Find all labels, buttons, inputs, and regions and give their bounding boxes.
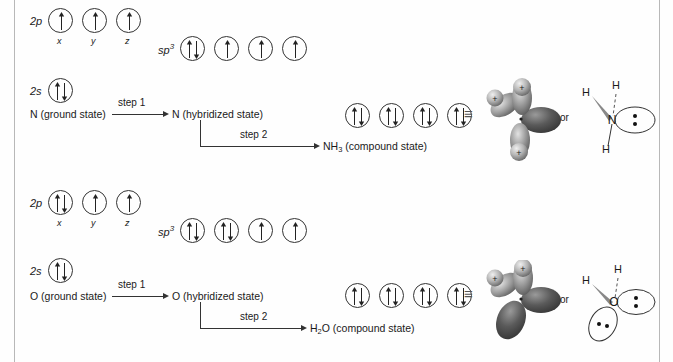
orbital-box: [214, 36, 239, 61]
svg-text:H: H: [614, 263, 622, 275]
spin-up-arrow: [385, 107, 392, 126]
n-hybridized-state-label: N (hybridized state): [172, 108, 263, 120]
spin-up-arrow: [126, 194, 133, 213]
n-compound-orbital-row: [345, 103, 472, 128]
orbital-box: [82, 8, 107, 33]
o-step2-vertical-line: [200, 302, 201, 328]
spin-up-arrow: [385, 287, 392, 306]
orbital-box: [48, 78, 73, 103]
spin-down-arrow: [392, 107, 399, 126]
o-2p-orbital-row: 2p: [30, 190, 141, 215]
spin-down-arrow: [358, 107, 365, 126]
spin-up-arrow: [92, 194, 99, 213]
spin-up-arrow: [58, 12, 65, 31]
left-margin-rule: [14, 0, 15, 362]
orbital-box: [282, 218, 307, 243]
spin-down-arrow: [61, 262, 68, 281]
orbital-box: [180, 36, 205, 61]
o-sp3-orbital-row: sp3: [158, 218, 307, 243]
orbital-box: [82, 190, 107, 215]
diagram-canvas: 2p x y z sp3: [0, 0, 673, 362]
orbital-box: [48, 8, 73, 33]
n-step1-arrowhead: [163, 111, 169, 117]
svg-text:+: +: [519, 83, 524, 93]
orbital-box: [116, 8, 141, 33]
spin-up-arrow: [453, 287, 460, 306]
spin-up-arrow: [292, 222, 299, 241]
svg-text:+: +: [520, 264, 525, 274]
svg-text:N: N: [608, 113, 617, 127]
spin-down-arrow: [193, 222, 200, 241]
n-step2-label: step 2: [240, 129, 267, 140]
o-equivalence-symbol: ≡: [464, 285, 473, 302]
orbital-box: [48, 258, 73, 283]
spin-up-arrow: [186, 40, 193, 59]
o-step1-arrowhead: [163, 293, 169, 299]
o-sp3-label: sp3: [158, 224, 174, 238]
n-ground-state-label: N (ground state): [30, 108, 106, 120]
spin-up-arrow: [351, 107, 358, 126]
orbital-box: [345, 283, 370, 308]
n-step1-label: step 1: [118, 97, 145, 108]
spin-up-arrow: [224, 40, 231, 59]
orbital-box: [116, 190, 141, 215]
spin-up-arrow: [220, 222, 227, 241]
o-step2-arrow-line: [200, 328, 302, 329]
spin-down-arrow: [358, 287, 365, 306]
spin-up-arrow: [419, 107, 426, 126]
nh3-lewis-structure: H H H N: [578, 78, 662, 164]
n-2p-sub-x: x: [57, 36, 62, 46]
spin-up-arrow: [54, 262, 61, 281]
spin-down-arrow: [426, 287, 433, 306]
svg-text:O: O: [609, 295, 618, 309]
spin-up-arrow: [258, 40, 265, 59]
o-step2-arrowhead: [301, 325, 307, 331]
o-step1-arrow-line: [112, 296, 164, 297]
o-compound-state-label: H2O (compound state): [310, 322, 415, 334]
n-compound-state-label: NH3 (compound state): [323, 140, 427, 152]
n-2p-label: 2p: [30, 15, 42, 27]
o-compound-orbital-row: [345, 283, 472, 308]
n-sp3-orbital-row: sp3: [158, 36, 307, 61]
o-hybridized-state-label: O (hybridized state): [172, 290, 264, 302]
o-2p-sub-z: z: [125, 218, 130, 228]
orbital-box: [214, 218, 239, 243]
spin-down-arrow: [61, 194, 68, 213]
spin-down-arrow: [227, 222, 234, 241]
svg-text:+: +: [492, 94, 497, 104]
spin-up-arrow: [126, 12, 133, 31]
o-step1-label: step 1: [118, 279, 145, 290]
n-step2-arrow-line: [200, 146, 315, 147]
o-2p-sub-x: x: [57, 218, 62, 228]
n-equivalence-symbol: ≡: [464, 105, 473, 122]
orbital-box: [379, 283, 404, 308]
svg-text:+: +: [516, 148, 521, 158]
o-ground-state-label: O (ground state): [30, 290, 106, 302]
spin-up-arrow: [292, 40, 299, 59]
spin-down-arrow: [426, 107, 433, 126]
orbital-box: [379, 103, 404, 128]
spin-up-arrow: [419, 287, 426, 306]
n-step1-arrow-line: [112, 114, 164, 115]
svg-text:H: H: [602, 143, 610, 155]
svg-text:+: +: [492, 274, 497, 284]
n-2s-orbital-row: 2s: [30, 78, 73, 103]
n-step2-arrowhead: [314, 143, 320, 149]
orbital-box: [48, 190, 73, 215]
o-2p-sub-y: y: [91, 218, 96, 228]
spin-up-arrow: [258, 222, 265, 241]
spin-up-arrow: [92, 12, 99, 31]
n-2p-orbital-row: 2p: [30, 8, 141, 33]
n-2p-sub-z: z: [125, 36, 130, 46]
n-2p-sub-y: y: [91, 36, 96, 46]
spin-down-arrow: [61, 82, 68, 101]
orbital-box: [413, 283, 438, 308]
n-sp3-orbital-model: + + +: [478, 78, 564, 166]
orbital-box: [413, 103, 438, 128]
h2o-lewis-structure: H H O: [578, 262, 662, 352]
orbital-box: [345, 103, 370, 128]
o-step2-label: step 2: [240, 311, 267, 322]
o-2s-orbital-row: 2s: [30, 258, 73, 283]
o-sp3-orbital-model: + +: [478, 260, 564, 348]
n-2s-label: 2s: [30, 85, 42, 97]
